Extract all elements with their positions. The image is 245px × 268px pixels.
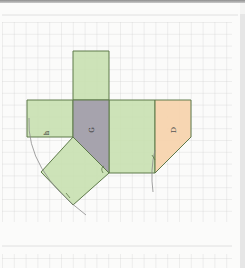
label-h: h	[43, 130, 51, 135]
label-D: D	[169, 127, 178, 133]
net-diagram: h G D	[0, 0, 245, 268]
face-right-rect	[109, 100, 155, 173]
face-top-square	[73, 51, 109, 100]
label-G: G	[88, 127, 96, 133]
grid-lower	[2, 254, 232, 268]
